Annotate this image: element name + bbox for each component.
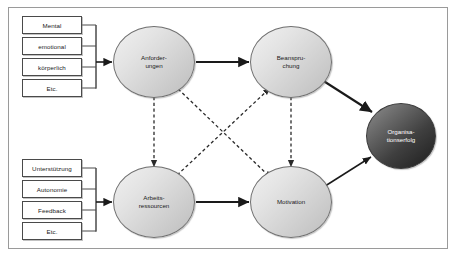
factor-box-koerperlich[interactable]: körperlich	[22, 58, 82, 76]
factor-box-etc-resources[interactable]: Etc.	[22, 222, 82, 240]
node-label-line: Arbeits-	[143, 194, 164, 202]
factor-box-feedback[interactable]: Feedback	[22, 201, 82, 219]
connector-resources-manifold	[82, 168, 112, 232]
connector-demands-manifold	[82, 25, 112, 89]
connector-beanspruchung-organisationserfolg	[322, 80, 372, 112]
node-beanspruchung[interactable]: Beanspru- chung	[250, 26, 332, 98]
factor-box-label: Etc.	[46, 228, 57, 235]
factor-box-label: Unterstützung	[32, 165, 72, 172]
node-label-line: ungen	[145, 62, 162, 70]
diagram-canvas: Mental emotional körperlich Etc. Unterst…	[0, 0, 456, 263]
node-arbeitsressourcen[interactable]: Arbeits- ressourcen	[113, 166, 195, 238]
connector-arbeitsressourcen-beanspruchung-dashed	[173, 88, 270, 179]
node-motivation[interactable]: Motivation	[250, 166, 332, 238]
factor-box-label: Etc.	[46, 85, 57, 92]
node-label-line: Organisa-	[387, 128, 414, 136]
factor-box-label: Feedback	[38, 207, 66, 214]
factor-box-label: emotional	[38, 43, 66, 50]
node-label-line: ressourcen	[139, 202, 170, 210]
node-label-line: Motivation	[277, 198, 305, 206]
factor-box-etc-demands[interactable]: Etc.	[22, 79, 82, 97]
node-label-line: chung	[283, 62, 300, 70]
factor-box-label: Mental	[42, 22, 61, 29]
node-label-line: Beanspru-	[277, 54, 306, 62]
connector-motivation-organisationserfolg	[322, 157, 371, 188]
factor-box-unterstuetzung[interactable]: Unterstützung	[22, 159, 82, 177]
node-anforderungen[interactable]: Anforder- ungen	[113, 26, 195, 98]
factor-box-emotional[interactable]: emotional	[22, 37, 82, 55]
node-organisationserfolg[interactable]: Organisa- tionserfolg	[366, 103, 436, 169]
factor-box-mental[interactable]: Mental	[22, 16, 82, 34]
factor-box-label: Autonomie	[37, 186, 67, 193]
factor-box-label: körperlich	[38, 64, 66, 71]
connector-anforderungen-motivation-dashed	[174, 85, 271, 178]
factor-box-autonomie[interactable]: Autonomie	[22, 180, 82, 198]
node-label-line: Anforder-	[141, 54, 167, 62]
node-label-line: tionserfolg	[387, 136, 416, 144]
